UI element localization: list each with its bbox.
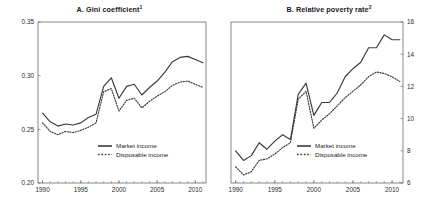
y-tick-label: 16	[407, 18, 415, 25]
legend-label-disposable-income: Disposable income	[116, 151, 169, 158]
x-tick-label: 2010	[385, 186, 400, 193]
x-tick-label: 1990	[35, 186, 50, 193]
figure-container: A. Gini coefficient1 0.200.250.300.35199…	[0, 0, 439, 208]
legend-label-market-income: Market income	[116, 142, 157, 149]
y-tick-label: 8	[407, 147, 411, 154]
x-tick-label: 2000	[112, 186, 127, 193]
panel-relative-poverty-rate: B. Relative poverty rate2 68101214161990…	[219, 0, 439, 208]
y-tick-label: 0.30	[22, 72, 35, 79]
x-tick-label: 2005	[150, 186, 165, 193]
legend-label-market-income: Market income	[315, 142, 356, 149]
x-tick-label: 2000	[307, 186, 322, 193]
y-tick-label: 12	[407, 83, 415, 90]
y-tick-label: 6	[407, 179, 411, 186]
x-tick-label: 1995	[74, 186, 89, 193]
panel-gini-coefficient: A. Gini coefficient1 0.200.250.300.35199…	[0, 0, 219, 208]
x-tick-label: 1995	[268, 186, 283, 193]
series-line-disposable-income	[236, 72, 400, 175]
y-tick-label: 0.20	[22, 179, 35, 186]
panel-b-plot: 681012141619901995200020052010Market inc…	[219, 0, 439, 208]
x-tick-label: 1990	[229, 186, 244, 193]
panel-a-plot: 0.200.250.300.3519901995200020052010Mark…	[0, 0, 219, 208]
y-tick-label: 0.25	[22, 126, 35, 133]
x-tick-label: 2010	[188, 186, 203, 193]
series-line-disposable-income	[43, 81, 203, 135]
legend-label-disposable-income: Disposable income	[315, 151, 368, 158]
x-tick-label: 2005	[346, 186, 361, 193]
y-tick-label: 14	[407, 51, 415, 58]
series-line-market-income	[43, 56, 203, 126]
y-tick-label: 0.35	[22, 18, 35, 25]
y-tick-label: 10	[407, 115, 415, 122]
